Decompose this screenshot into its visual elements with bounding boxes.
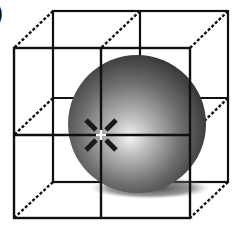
edge-top-mid	[101, 11, 140, 48]
edge-top-right	[190, 11, 228, 48]
edge-bottom-left	[14, 182, 53, 218]
edge-top-left	[14, 11, 53, 48]
sphere-in-cube-figure: )	[0, 0, 239, 231]
edge-mid-left	[14, 98, 53, 135]
figure-canvas	[0, 0, 239, 231]
